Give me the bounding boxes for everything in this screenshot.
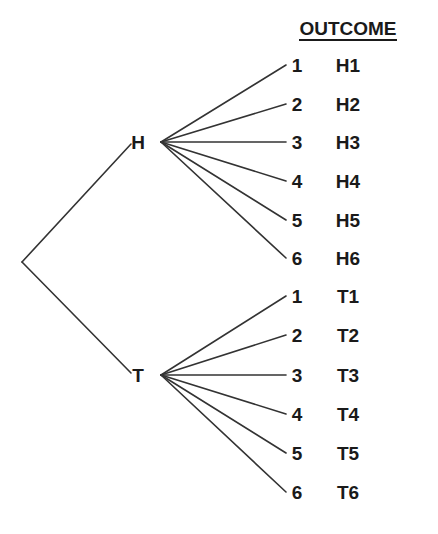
die-label-h-2: 2: [286, 95, 308, 114]
fan-line-h-2: [161, 104, 286, 142]
outcome-label-t6: T6: [318, 483, 378, 502]
root-branch-h: [22, 144, 131, 262]
outcome-label-t3: T3: [318, 366, 378, 385]
fan-line-t-4: [161, 375, 286, 414]
fan-line-h-4: [161, 142, 286, 181]
root-branch-t: [22, 262, 131, 373]
fan-line-t-2: [161, 335, 286, 375]
tree-diagram: OUTCOME H1H12H23H34H45H56H6T1T12T23T34T4…: [0, 0, 438, 534]
die-label-t-6: 6: [286, 483, 308, 502]
outcome-label-t2: T2: [318, 326, 378, 345]
die-label-t-3: 3: [286, 366, 308, 385]
outcome-label-h6: H6: [318, 249, 378, 268]
outcome-header-text: OUTCOME: [299, 19, 396, 41]
fan-line-h-5: [161, 142, 286, 220]
fan-line-h-1: [161, 65, 286, 142]
die-label-h-6: 6: [286, 249, 308, 268]
outcome-label-h2: H2: [318, 95, 378, 114]
die-label-t-4: 4: [286, 405, 308, 424]
fan-line-t-6: [161, 375, 286, 492]
outcome-label-t4: T4: [318, 405, 378, 424]
outcome-label-t5: T5: [318, 444, 378, 463]
outcome-column-header: OUTCOME: [293, 19, 403, 41]
die-label-h-3: 3: [286, 133, 308, 152]
die-label-t-2: 2: [286, 326, 308, 345]
node-label-t: T: [125, 366, 151, 385]
fan-line-t-1: [161, 296, 286, 375]
fan-line-t-5: [161, 375, 286, 453]
node-label-h: H: [125, 133, 151, 152]
die-label-h-1: 1: [286, 56, 308, 75]
outcome-label-h5: H5: [318, 211, 378, 230]
fan-line-h-6: [161, 142, 286, 258]
outcome-label-t1: T1: [318, 287, 378, 306]
outcome-label-h1: H1: [318, 56, 378, 75]
outcome-label-h4: H4: [318, 172, 378, 191]
die-label-h-5: 5: [286, 211, 308, 230]
die-label-t-5: 5: [286, 444, 308, 463]
die-label-h-4: 4: [286, 172, 308, 191]
outcome-label-h3: H3: [318, 133, 378, 152]
die-label-t-1: 1: [286, 287, 308, 306]
